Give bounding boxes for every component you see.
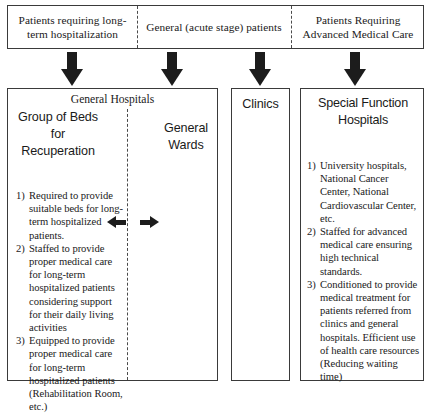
list-item-text: Conditioned to provide medical treatment… [320, 279, 419, 382]
arrow-head [150, 216, 159, 228]
arrow-down-icon-1 [61, 52, 83, 86]
list-item: 1) Required to provide suitable beds for… [16, 189, 124, 242]
general-wards-title: General Wards [156, 120, 216, 154]
list-item: 3) Conditioned to provide medical treatm… [307, 278, 421, 384]
list-item: 3) Equipped to provide proper medical ca… [16, 334, 124, 413]
arrow-head [344, 69, 366, 86]
list-item: 2) Staffed to provide proper medical car… [16, 242, 124, 334]
clinics-title: Clinics [232, 96, 289, 112]
arrow-down-icon-4 [344, 52, 366, 86]
arrow-head [61, 69, 83, 86]
clinics-box: Clinics [231, 88, 290, 381]
arrow-head [161, 69, 183, 86]
special-function-hospitals-title: Special Function Hospitals [305, 95, 421, 129]
list-item-number: 1) [307, 159, 316, 172]
list-item-text: Staffed to provide proper medical care f… [29, 243, 115, 333]
general-hospitals-box: General Hospitals Group of Beds for Recu… [7, 88, 218, 381]
arrow-down-icon-2 [161, 52, 183, 86]
list-item-number: 3) [16, 334, 25, 347]
patient-category-advanced-care: Patients Requiring Advanced Medical Care [291, 6, 425, 48]
list-item: 1) University hospitals, National Cancer… [307, 159, 421, 225]
arrow-down-icon-3 [249, 52, 271, 86]
patient-category-general-acute: General (acute stage) patients [137, 6, 291, 48]
special-function-hospitals-box: Special Function Hospitals 1) University… [300, 88, 424, 381]
band-divider-2 [291, 6, 292, 48]
general-hospitals-title: General Hospitals [8, 93, 217, 107]
patient-category-long-term: Patients requiring long-term hospitaliza… [8, 6, 137, 48]
band-divider-1 [137, 6, 138, 48]
patient-categories-band: Patients requiring long-term hospitaliza… [7, 5, 424, 49]
list-item-text: Staffed for advanced medical care ensuri… [320, 226, 412, 277]
list-item-number: 3) [307, 278, 316, 291]
arrow-right-icon [140, 216, 159, 229]
list-item-number: 1) [16, 189, 25, 202]
list-item-text: Required to provide suitable beds for lo… [29, 190, 123, 241]
special-function-hospitals-requirements-list: 1) University hospitals, National Cancer… [307, 159, 421, 383]
group-of-beds-title: Group of Beds for Recuperation [14, 109, 102, 160]
patient-category-general-acute-label: General (acute stage) patients [146, 20, 281, 34]
patient-category-long-term-label: Patients requiring long-term hospitaliza… [12, 13, 133, 41]
list-item-text: University hospitals, National Cancer Ce… [320, 160, 416, 224]
list-item-text: Equipped to provide proper medical care … [29, 335, 123, 412]
general-hospitals-requirements-list: 1) Required to provide suitable beds for… [16, 189, 124, 413]
general-hospitals-inner-divider [127, 109, 128, 380]
arrow-head [249, 69, 271, 86]
list-item-number: 2) [16, 242, 25, 255]
patient-category-advanced-care-label: Patients Requiring Advanced Medical Care [295, 13, 421, 41]
list-item: 2) Staffed for advanced medical care ens… [307, 225, 421, 278]
list-item-number: 2) [307, 225, 316, 238]
